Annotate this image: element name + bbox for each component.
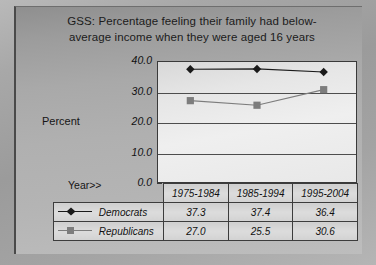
value-democrats-period-2: 37.4: [228, 203, 293, 222]
data-point-republicans-2: [253, 102, 260, 109]
value-republicans-period-3: 30.6: [293, 222, 358, 241]
series-republicans: [187, 86, 328, 109]
legend-label-republicans: Republicans: [99, 226, 154, 237]
column-header-period-1: 1975-1984: [164, 184, 229, 203]
value-republicans-period-1: 27.0: [164, 222, 229, 241]
square-marker-icon: [58, 225, 92, 238]
table-row: Democrats 37.3 37.4 36.4: [54, 203, 358, 222]
y-tick-label-20: 20.0: [106, 115, 152, 127]
data-point-democrats-3: [319, 68, 327, 76]
y-axis-title: Percent: [42, 115, 80, 127]
data-point-democrats-2: [253, 65, 261, 73]
y-tick-label-30: 30.0: [106, 85, 152, 97]
column-header-period-2: 1985-1994: [228, 184, 293, 203]
data-point-republicans-1: [187, 97, 194, 104]
data-table: 1975-1984 1985-1994 1995-2004 Democrats …: [53, 183, 358, 241]
chart-screenshot: GSS: Percentage feeling their family had…: [0, 0, 376, 265]
value-democrats-period-3: 36.4: [293, 203, 358, 222]
chart-title-line-2: average income when they were aged 16 ye…: [42, 29, 342, 45]
chart-title: GSS: Percentage feeling their family had…: [42, 13, 342, 45]
y-tick-label-40: 40.0: [106, 54, 152, 66]
value-republicans-period-2: 25.5: [228, 222, 293, 241]
y-axis-tick-labels: 40.0 30.0 20.0 10.0 0.0: [104, 61, 152, 183]
table-header-row: 1975-1984 1985-1994 1995-2004: [54, 184, 358, 203]
column-header-period-3: 1995-2004: [293, 184, 358, 203]
series-layer: [157, 61, 357, 183]
y-tick-label-10: 10.0: [106, 146, 152, 158]
value-democrats-period-1: 37.3: [164, 203, 229, 222]
chart-title-line-1: GSS: Percentage feeling their family had…: [42, 13, 342, 29]
table-row: Republicans 27.0 25.5 30.6: [54, 222, 358, 241]
data-point-republicans-3: [320, 86, 327, 93]
legend-label-democrats: Democrats: [99, 207, 147, 218]
diamond-marker-icon: [58, 206, 92, 219]
legend-cell-democrats: Democrats: [54, 203, 164, 222]
data-point-democrats-1: [186, 65, 194, 73]
series-democrats: [186, 65, 328, 76]
legend-cell-republicans: Republicans: [54, 222, 164, 241]
chart-object: GSS: Percentage feeling their family had…: [14, 6, 362, 254]
table-corner-cell: [54, 184, 164, 203]
